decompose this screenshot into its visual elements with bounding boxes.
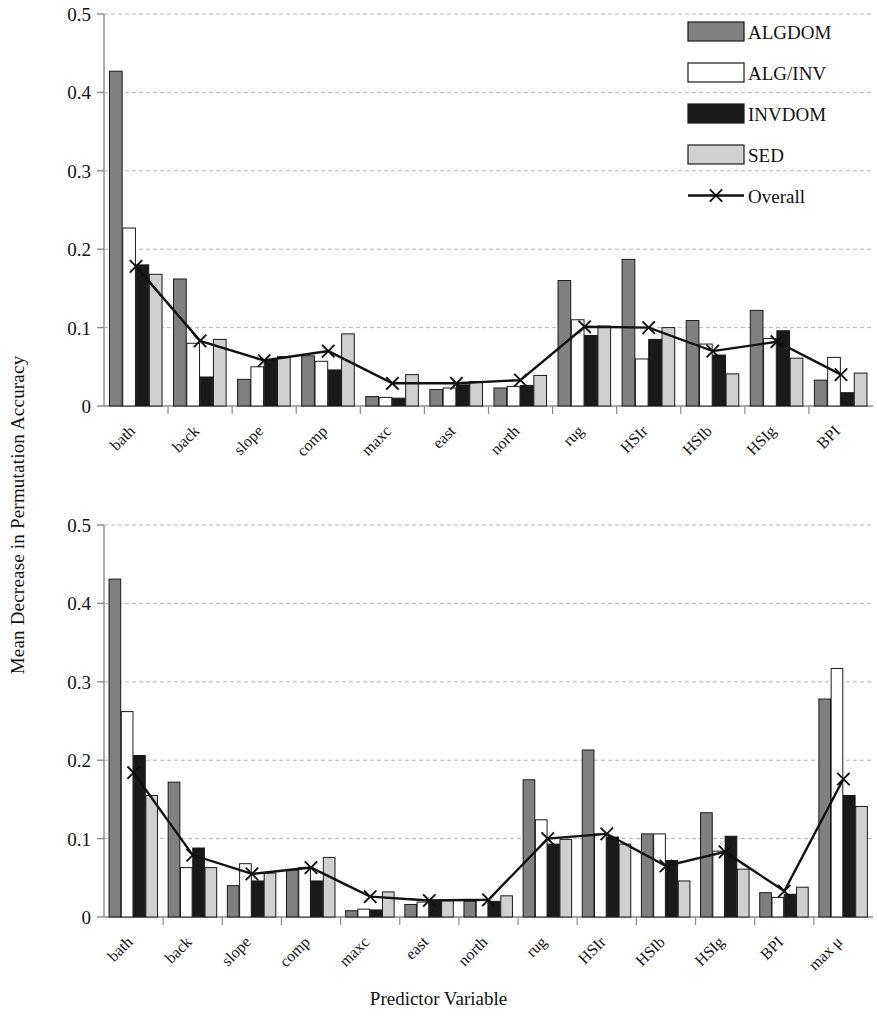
bar — [342, 334, 355, 406]
y-tick-label: 0.5 — [67, 4, 91, 25]
bar-group — [686, 321, 739, 406]
bar — [200, 377, 213, 406]
bar — [382, 892, 394, 917]
y-tick-label: 0.5 — [67, 515, 91, 536]
y-tick-label: 0.4 — [67, 82, 91, 103]
legend-swatch — [688, 104, 744, 123]
x-axis-category-label: max μ — [805, 933, 846, 974]
bar — [252, 881, 264, 917]
overall-markers — [130, 260, 847, 389]
legend-swatch — [688, 145, 744, 164]
x-axis-category-label: HSIb — [632, 933, 668, 969]
bar — [323, 857, 335, 917]
bar — [737, 869, 749, 917]
x-axis-category-label: HSIb — [679, 422, 715, 458]
x-axis-category-label: HSIg — [691, 933, 728, 970]
bar — [251, 367, 264, 406]
bar-group — [819, 668, 868, 917]
legend-swatch — [688, 22, 744, 41]
bar — [622, 259, 635, 406]
bar — [227, 886, 239, 917]
bar-group — [168, 782, 217, 917]
bar — [205, 868, 217, 917]
legend-label: ALGDOM — [748, 22, 831, 43]
bar — [443, 388, 456, 406]
bar — [854, 373, 867, 406]
bar — [311, 881, 323, 917]
x-axis-category-label: bath — [104, 933, 135, 964]
bar — [168, 782, 180, 917]
x-axis-category-label: back — [169, 422, 202, 455]
legend-label: ALG/INV — [748, 63, 826, 84]
bar — [406, 375, 419, 406]
y-tick-label: 0.4 — [67, 593, 91, 614]
bar — [109, 71, 122, 406]
overall-marker-x — [194, 335, 206, 347]
bar — [429, 901, 441, 917]
bar — [713, 851, 725, 917]
bar — [501, 896, 513, 917]
x-axis-category-label: bath — [107, 422, 138, 453]
bar — [856, 806, 868, 917]
bar — [442, 901, 454, 917]
x-axis-category-label: back — [161, 933, 194, 966]
y-tick-label: 0.3 — [67, 161, 91, 182]
y-tick-label: 0 — [82, 396, 92, 417]
y-axis-ticks: 00.10.20.30.40.5 — [67, 4, 104, 417]
y-tick-label: 0 — [82, 907, 92, 928]
x-axis-title: Predictor Variable — [0, 988, 877, 1010]
bar — [662, 328, 675, 406]
bar — [430, 390, 443, 406]
bar-group — [622, 259, 675, 406]
bar — [582, 750, 594, 917]
bar — [841, 393, 854, 406]
x-axis-category-label: comp — [293, 422, 331, 460]
y-tick-label: 0.1 — [67, 318, 91, 339]
x-axis-category-label: comp — [276, 933, 314, 971]
bar — [521, 386, 534, 406]
bar-group — [430, 382, 483, 406]
bar-group — [238, 357, 291, 406]
bar — [123, 228, 136, 406]
bar — [535, 820, 547, 917]
bar — [701, 813, 713, 917]
x-axis-category-label: BPI — [813, 422, 843, 452]
bar — [278, 357, 291, 406]
bar — [790, 358, 803, 406]
x-axis-category-label: north — [455, 933, 491, 969]
bar — [264, 360, 277, 406]
chart-panel-top: 00.10.20.30.40.5bathbackslopecompmaxceas… — [0, 0, 877, 480]
x-axis-category-label: HSIr — [617, 422, 651, 456]
bar — [180, 868, 192, 917]
bar — [174, 279, 187, 406]
bar — [548, 844, 560, 917]
x-axis-category-label: HSIr — [575, 933, 609, 967]
bar — [607, 837, 619, 917]
x-axis-category-label: rug — [560, 422, 588, 450]
bar — [286, 870, 298, 917]
bar — [121, 712, 133, 917]
bar — [494, 388, 507, 406]
y-tick-label: 0.2 — [67, 239, 91, 260]
bar — [264, 873, 276, 917]
x-axis-separators — [168, 406, 809, 414]
y-tick-label: 0.1 — [67, 829, 91, 850]
bar — [456, 385, 469, 406]
bar — [109, 579, 121, 917]
legend-label: Overall — [748, 186, 805, 207]
legend: ALGDOMALG/INVINVDOMSEDOverall — [688, 22, 831, 207]
y-tick-label: 0.2 — [67, 750, 91, 771]
x-axis-category-label: east — [402, 933, 432, 963]
x-axis-category-label: BPI — [757, 933, 787, 963]
bar — [302, 356, 315, 406]
bar — [417, 902, 429, 917]
bar — [635, 359, 648, 406]
bar — [238, 379, 251, 406]
x-axis-category-label: HSIg — [743, 422, 780, 459]
bar-group — [641, 834, 690, 917]
y-axis-ticks: 00.10.20.30.40.5 — [67, 515, 104, 928]
x-axis-category-label: maxc — [358, 422, 395, 459]
bar — [346, 911, 358, 917]
x-axis-category-label: north — [487, 422, 523, 458]
bar — [523, 780, 535, 917]
